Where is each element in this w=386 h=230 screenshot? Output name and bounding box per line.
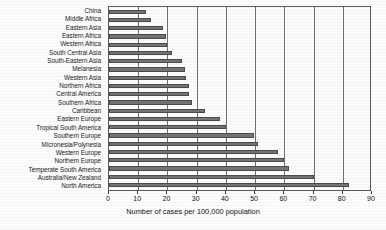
- bar-row: [109, 124, 370, 132]
- bar: [109, 125, 226, 129]
- bar: [109, 67, 185, 71]
- x-tick-label: 70: [309, 195, 317, 202]
- y-axis-label: China: [0, 7, 105, 15]
- bar: [109, 109, 205, 113]
- bar: [109, 34, 166, 38]
- bar-row: [109, 8, 370, 16]
- y-axis-label: Eastern Asia: [0, 24, 105, 32]
- bar: [109, 18, 151, 22]
- y-axis-label: Central America: [0, 90, 105, 98]
- x-tick-mark: [254, 191, 255, 194]
- x-tick-mark: [196, 191, 197, 194]
- y-axis-label: Temperate South America: [0, 166, 105, 174]
- bar-row: [109, 91, 370, 99]
- bar-row: [109, 181, 370, 189]
- x-tick-mark: [371, 191, 372, 194]
- bar: [109, 59, 182, 63]
- bar: [109, 166, 289, 170]
- y-axis-label: Western Europe: [0, 149, 105, 157]
- bar-chart: ChinaMiddle AfricaEastern AsiaEastern Af…: [0, 0, 386, 230]
- y-axis-label: South Central Asia: [0, 49, 105, 57]
- bar-row: [109, 66, 370, 74]
- y-axis-label: Eastern Africa: [0, 32, 105, 40]
- bar: [109, 84, 189, 88]
- bar-row: [109, 33, 370, 41]
- bar-row: [109, 173, 370, 181]
- bar-row: [109, 41, 370, 49]
- x-tick-label: 0: [106, 195, 110, 202]
- bar-row: [109, 132, 370, 140]
- bar-row: [109, 165, 370, 173]
- x-tick-label: 20: [163, 195, 171, 202]
- x-tick-mark: [108, 191, 109, 194]
- y-axis-label: Eastern Europe: [0, 115, 105, 123]
- bar-row: [109, 148, 370, 156]
- x-tick-mark: [166, 191, 167, 194]
- bar-row: [109, 49, 370, 57]
- y-axis-label: Western Asia: [0, 74, 105, 82]
- y-axis-label: Caribbean: [0, 107, 105, 115]
- bar-row: [109, 140, 370, 148]
- bar: [109, 43, 167, 47]
- x-tick-mark: [137, 191, 138, 194]
- y-axis-label: Tropical South America: [0, 124, 105, 132]
- bar: [109, 92, 189, 96]
- y-axis-label: Northern Africa: [0, 82, 105, 90]
- bar: [109, 51, 172, 55]
- bar: [109, 117, 220, 121]
- bar-row: [109, 157, 370, 165]
- bar-row: [109, 82, 370, 90]
- x-tick-mark: [313, 191, 314, 194]
- y-axis-labels: ChinaMiddle AfricaEastern AsiaEastern Af…: [0, 6, 105, 191]
- bar: [109, 183, 349, 187]
- x-tick-label: 10: [133, 195, 141, 202]
- bar: [109, 150, 278, 154]
- plot-area: [108, 6, 371, 191]
- bar-row: [109, 74, 370, 82]
- bar-row: [109, 99, 370, 107]
- x-tick-label: 90: [367, 195, 375, 202]
- x-tick-mark: [225, 191, 226, 194]
- bar: [109, 26, 163, 30]
- y-axis-label: Australia/New Zealand: [0, 174, 105, 182]
- y-axis-label: Southern Africa: [0, 99, 105, 107]
- bar: [109, 142, 258, 146]
- y-axis-label: Micronesia/Polynesia: [0, 141, 105, 149]
- bar: [109, 175, 314, 179]
- y-axis-label: Northern Europe: [0, 157, 105, 165]
- bar-row: [109, 115, 370, 123]
- x-axis-title: Number of cases per 100,000 population: [0, 207, 386, 216]
- bar: [109, 10, 146, 14]
- y-axis-label: Melanesia: [0, 65, 105, 73]
- bar: [109, 100, 192, 104]
- x-tick-label: 60: [279, 195, 287, 202]
- x-tick-label: 80: [338, 195, 346, 202]
- x-tick-label: 50: [250, 195, 258, 202]
- y-axis-label: Southern Europe: [0, 132, 105, 140]
- bar-row: [109, 58, 370, 66]
- x-axis-ticks: 0102030405060708090: [108, 191, 371, 195]
- y-axis-label: Middle Africa: [0, 15, 105, 23]
- y-axis-label: North America: [0, 182, 105, 190]
- bar: [109, 133, 254, 137]
- bar: [109, 76, 186, 80]
- x-tick-label: 30: [192, 195, 200, 202]
- bar-row: [109, 107, 370, 115]
- x-tick-mark: [283, 191, 284, 194]
- x-tick-label: 40: [221, 195, 229, 202]
- y-axis-label: South-Eastern Asia: [0, 57, 105, 65]
- bar: [109, 158, 284, 162]
- bar-row: [109, 16, 370, 24]
- bar-row: [109, 25, 370, 33]
- bar-rows: [109, 7, 370, 190]
- y-axis-label: Western Africa: [0, 40, 105, 48]
- x-tick-mark: [342, 191, 343, 194]
